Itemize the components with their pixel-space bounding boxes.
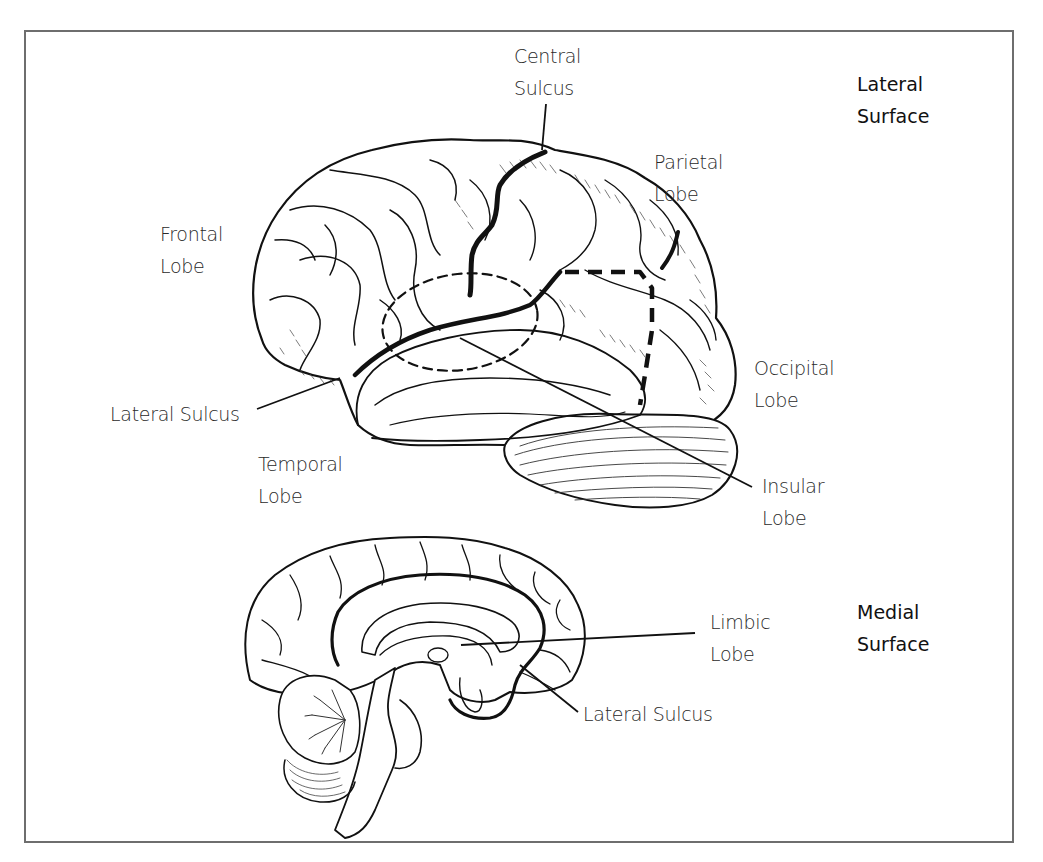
label-parietal-lobe-line1: Parietal <box>654 146 723 178</box>
label-limbic-lobe-line2: Lobe <box>710 638 770 670</box>
label-frontal-lobe-line2: Lobe <box>160 250 223 282</box>
label-insular-lobe-line2: Lobe <box>762 502 824 534</box>
medial-cerebellum <box>279 676 360 764</box>
heading-lateral-surface-line1: Lateral <box>857 68 929 100</box>
label-lateral-sulcus-medial-view: Lateral Sulcus <box>583 698 713 730</box>
label-insular-lobe: Insular Lobe <box>762 470 824 534</box>
label-parietal-lobe: Parietal Lobe <box>654 146 723 210</box>
label-limbic-lobe-line1: Limbic <box>710 606 770 638</box>
label-central-sulcus-line2: Sulcus <box>514 72 581 104</box>
heading-medial-surface-line1: Medial <box>857 596 929 628</box>
label-temporal-lobe: Temporal Lobe <box>258 448 343 512</box>
label-lateral-sulcus-text: Lateral Sulcus <box>110 398 240 430</box>
cerebellum-ridges <box>287 760 345 796</box>
label-occipital-lobe-line1: Occipital <box>754 352 834 384</box>
heading-medial-surface: Medial Surface <box>857 596 929 660</box>
label-central-sulcus-line1: Central <box>514 40 581 72</box>
leader-central-sulcus <box>542 104 546 150</box>
label-temporal-lobe-line2: Lobe <box>258 480 343 512</box>
heading-lateral-surface-line2: Surface <box>857 100 929 132</box>
label-occipital-lobe: Occipital Lobe <box>754 352 834 416</box>
heading-medial-surface-line2: Surface <box>857 628 929 660</box>
label-occipital-lobe-line2: Lobe <box>754 384 834 416</box>
heading-lateral-surface: Lateral Surface <box>857 68 929 132</box>
label-lateral-sulcus-lateral-view: Lateral Sulcus <box>110 398 240 430</box>
label-limbic-lobe: Limbic Lobe <box>710 606 770 670</box>
label-parietal-lobe-line2: Lobe <box>654 178 723 210</box>
label-central-sulcus: Central Sulcus <box>514 40 581 104</box>
pons <box>395 700 421 768</box>
label-lateral-sulcus-medial-text: Lateral Sulcus <box>583 698 713 730</box>
label-insular-lobe-line1: Insular <box>762 470 824 502</box>
leader-lateral-sulcus <box>257 378 340 409</box>
medial-brain <box>245 537 584 838</box>
label-frontal-lobe: Frontal Lobe <box>160 218 223 282</box>
label-frontal-lobe-line1: Frontal <box>160 218 223 250</box>
label-temporal-lobe-line1: Temporal <box>258 448 343 480</box>
